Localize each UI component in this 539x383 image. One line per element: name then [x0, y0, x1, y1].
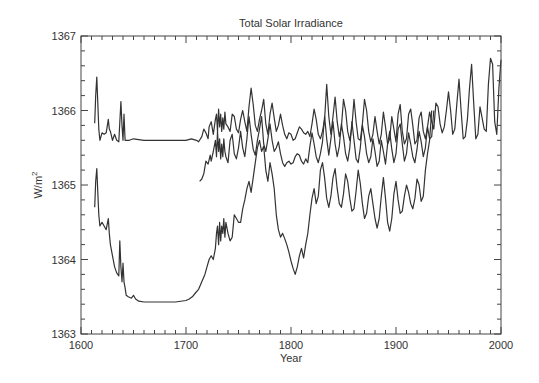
x-axis-tick-labels: 16001700180019002000	[69, 339, 513, 351]
tsi-chart: Total Solar Irradiance 16001700180019002…	[0, 0, 539, 383]
chart-title: Total Solar Irradiance	[239, 17, 343, 29]
y-axis-label: W/m2	[30, 171, 44, 199]
y-axis-label-base: W/m	[32, 176, 44, 199]
x-tick-label: 1700	[174, 339, 198, 351]
y-tick-label: 1364	[52, 254, 76, 266]
plot-frame	[81, 36, 501, 334]
y-tick-label: 1366	[52, 105, 76, 117]
plot-area	[81, 36, 501, 334]
x-axis-label: Year	[280, 352, 303, 364]
y-tick-label: 1365	[52, 179, 76, 191]
series-lines	[95, 58, 501, 302]
x-tick-label: 2000	[489, 339, 513, 351]
axis-ticks	[81, 36, 501, 334]
svg-text:W/m2: W/m2	[30, 171, 44, 199]
x-tick-label: 1900	[384, 339, 408, 351]
y-tick-label: 1367	[52, 30, 76, 42]
x-tick-label: 1600	[69, 339, 93, 351]
y-axis-tick-labels: 13631364136513661367	[52, 30, 76, 340]
y-tick-label: 1363	[52, 328, 76, 340]
series-line-upper-reconstruction	[95, 58, 501, 144]
y-axis-label-superscript: 2	[30, 171, 39, 176]
x-tick-label: 1800	[279, 339, 303, 351]
